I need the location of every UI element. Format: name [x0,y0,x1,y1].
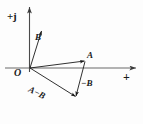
real-axis-label: + [123,71,130,83]
vector-a-line [30,61,85,68]
vector-diagram-svg [0,0,143,124]
vector-a-label: A [87,51,93,60]
vector-b-label: B [35,33,41,42]
vector-negative-b-label: −B [81,79,92,88]
imaginary-axis-label: +j [7,11,16,22]
origin-label: O [14,68,21,78]
figure-canvas: +j O + B A −B A−B [0,0,143,124]
